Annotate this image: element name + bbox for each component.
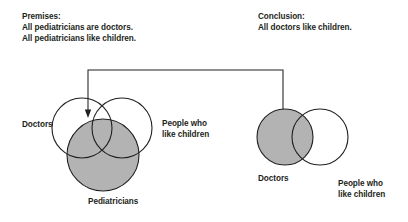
label-people-who-like-children-right: People who like children — [338, 178, 385, 200]
premises-heading: Premises: — [22, 11, 136, 22]
premise-line-2: All pediatricians like children. — [22, 33, 136, 44]
label-people-right-line1: People who — [338, 178, 385, 189]
conclusion-text-block: Conclusion: All doctors like children. — [258, 11, 352, 33]
label-doctors-right: Doctors — [258, 173, 289, 184]
connector-bracket — [85, 70, 286, 122]
conclusion-venn-diagram — [257, 109, 348, 165]
label-people-left-line1: People who — [162, 118, 209, 129]
label-people-who-like-children-left: People who like children — [162, 118, 209, 140]
premise-line-1: All pediatricians are doctors. — [22, 22, 136, 33]
label-doctors-left: Doctors — [22, 119, 53, 130]
label-people-left-line2: like children — [162, 129, 209, 140]
label-pediatricians: Pediatricians — [88, 196, 138, 207]
conclusion-heading: Conclusion: — [258, 11, 352, 22]
conclusion-line-1: All doctors like children. — [258, 22, 352, 33]
connector-path — [88, 70, 283, 116]
venn-argument-figure: Premises: All pediatricians are doctors.… — [0, 0, 408, 222]
circle-pediatricians — [67, 119, 139, 191]
arrowhead-left-icon — [85, 110, 91, 119]
circle-doctors-right — [257, 109, 313, 165]
label-people-right-line2: like children — [338, 189, 385, 200]
premises-text-block: Premises: All pediatricians are doctors.… — [22, 11, 136, 44]
premises-venn-diagram — [52, 98, 152, 191]
